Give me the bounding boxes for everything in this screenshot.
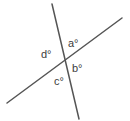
angle-label-a: a° bbox=[68, 38, 79, 49]
lines-canvas bbox=[0, 0, 130, 121]
angle-label-c: c° bbox=[54, 76, 64, 87]
angle-label-b: b° bbox=[72, 63, 83, 74]
angle-diagram-figure: a° b° c° d° bbox=[0, 0, 130, 121]
angle-label-d: d° bbox=[41, 49, 52, 60]
shallow-line bbox=[7, 18, 122, 103]
